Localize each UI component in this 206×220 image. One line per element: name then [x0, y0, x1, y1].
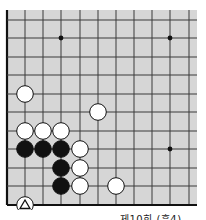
go-board — [0, 0, 206, 210]
white-stone — [72, 178, 89, 195]
white-stone — [72, 141, 89, 158]
black-stone — [53, 178, 70, 195]
white-stone — [72, 160, 89, 177]
black-stone — [53, 160, 70, 177]
white-stone — [35, 123, 52, 140]
star-point — [59, 36, 64, 41]
white-stone — [17, 86, 34, 103]
white-stone — [53, 123, 70, 140]
white-stone — [108, 178, 125, 195]
black-stone — [17, 141, 34, 158]
star-point — [168, 36, 173, 41]
star-point — [168, 147, 173, 152]
white-stone — [17, 123, 34, 140]
diagram-caption: 제10회 (흑4) — [120, 211, 182, 220]
white-stone — [90, 104, 107, 121]
black-stone — [53, 141, 70, 158]
black-stone — [35, 141, 52, 158]
